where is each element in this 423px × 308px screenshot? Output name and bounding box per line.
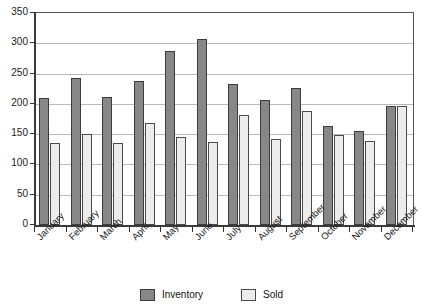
bars-container <box>35 13 413 225</box>
bar-group <box>67 13 99 225</box>
x-axis-labels: JanuaryFebruaryMarchAprilMayJuneJulyAugu… <box>0 232 423 280</box>
chart-legend: InventorySold <box>0 285 423 305</box>
bar-group <box>98 13 130 225</box>
bar-group <box>35 13 67 225</box>
bar-inventory[interactable] <box>165 51 175 225</box>
sold-swatch <box>241 289 256 301</box>
bar-sold[interactable] <box>208 142 218 225</box>
title-remnant <box>0 0 423 5</box>
bar-chart: 350300250200150100500 JanuaryFebruaryMar… <box>0 0 423 308</box>
bar-inventory[interactable] <box>291 88 301 225</box>
bar-sold[interactable] <box>113 143 123 225</box>
bar-sold[interactable] <box>397 106 407 225</box>
bar-group <box>130 13 162 225</box>
bar-group <box>224 13 256 225</box>
legend-label: Inventory <box>162 290 203 300</box>
y-tick-label: 250 <box>0 68 28 78</box>
legend-item[interactable]: Inventory <box>140 289 203 301</box>
bar-group <box>319 13 351 225</box>
bar-inventory[interactable] <box>228 84 238 225</box>
bar-inventory[interactable] <box>386 106 396 225</box>
bar-group <box>350 13 382 225</box>
bar-inventory[interactable] <box>354 131 364 225</box>
plot-area <box>34 12 414 226</box>
bar-sold[interactable] <box>145 123 155 225</box>
y-tick-label: 350 <box>0 7 28 17</box>
bar-inventory[interactable] <box>39 98 49 225</box>
y-tick-label: 0 <box>0 219 28 229</box>
bar-group <box>161 13 193 225</box>
bar-inventory[interactable] <box>260 100 270 225</box>
y-tick-label: 300 <box>0 37 28 47</box>
y-tick-label: 50 <box>0 189 28 199</box>
y-tick-label: 200 <box>0 98 28 108</box>
y-axis: 350300250200150100500 <box>0 0 28 232</box>
legend-item[interactable]: Sold <box>241 289 283 301</box>
bar-sold[interactable] <box>302 111 312 225</box>
bar-inventory[interactable] <box>71 78 81 225</box>
bar-group <box>256 13 288 225</box>
y-axis-line <box>34 12 36 227</box>
bar-inventory[interactable] <box>102 97 112 225</box>
bar-group <box>287 13 319 225</box>
bar-group <box>193 13 225 225</box>
y-tick-label: 100 <box>0 158 28 168</box>
bar-inventory[interactable] <box>197 39 207 225</box>
bar-sold[interactable] <box>176 137 186 225</box>
bar-inventory[interactable] <box>134 81 144 225</box>
bar-sold[interactable] <box>239 115 249 225</box>
y-tick-label: 150 <box>0 128 28 138</box>
bar-group <box>382 13 414 225</box>
inventory-swatch <box>140 289 155 301</box>
legend-label: Sold <box>263 290 283 300</box>
